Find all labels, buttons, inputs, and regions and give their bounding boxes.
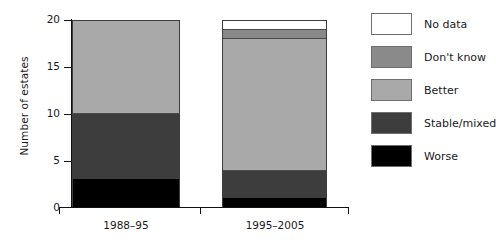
legend-swatch-no-data-icon <box>371 13 412 35</box>
y-tick-0 <box>64 207 71 208</box>
bar-segment-worse-1995-2005 <box>222 198 327 207</box>
bar-1995-2005 <box>222 20 327 208</box>
legend-swatch-better-icon <box>371 79 412 101</box>
x-axis-end-cap <box>348 208 349 214</box>
y-tick-5 <box>64 161 71 162</box>
legend-swatch-worse-icon <box>371 145 412 167</box>
y-tick-label-5: 5 <box>24 155 60 165</box>
y-tick-label-10: 10 <box>24 108 60 118</box>
y-tick-10 <box>64 114 71 115</box>
bar-segment-no-data-1995-2005 <box>222 20 327 29</box>
legend-item-better[interactable]: Better <box>371 78 458 102</box>
legend-swatch-stable-mixed-icon <box>371 112 412 134</box>
x-tick-label-1988-95: 1988–95 <box>76 219 176 231</box>
x-axis-start-cap <box>59 208 60 214</box>
x-axis-middle-tick <box>200 208 201 214</box>
bar-segment-stable-mixed-1988-95 <box>72 113 180 179</box>
y-tick-label-20: 20 <box>24 14 60 24</box>
legend-swatch-dont-know-icon <box>371 46 412 68</box>
y-tick-label-15: 15 <box>24 61 60 71</box>
bar-segment-dont-know-1995-2005 <box>222 29 327 38</box>
legend-label-worse: Worse <box>424 150 458 163</box>
bar-1988-95 <box>72 20 180 208</box>
legend-item-stable-mixed[interactable]: Stable/mixed <box>371 111 496 135</box>
bar-segment-worse-1988-95 <box>72 179 180 207</box>
y-tick-15 <box>64 67 71 68</box>
legend-label-stable-mixed: Stable/mixed <box>424 117 496 130</box>
x-tick-label-1995-2005: 1995–2005 <box>224 219 326 231</box>
legend-label-no-data: No data <box>424 18 467 31</box>
y-tick-20 <box>64 20 71 21</box>
x-axis-line <box>59 207 349 208</box>
legend-label-dont-know: Don't know <box>424 51 486 64</box>
bar-segment-better-1995-2005 <box>222 38 327 169</box>
legend-item-worse[interactable]: Worse <box>371 144 458 168</box>
legend-item-dont-know[interactable]: Don't know <box>371 45 486 69</box>
legend-label-better: Better <box>424 84 458 97</box>
legend-item-no-data[interactable]: No data <box>371 12 467 36</box>
bar-segment-stable-mixed-1995-2005 <box>222 170 327 198</box>
bar-segment-better-1988-95 <box>72 20 180 114</box>
y-tick-label-0: 0 <box>24 202 60 212</box>
